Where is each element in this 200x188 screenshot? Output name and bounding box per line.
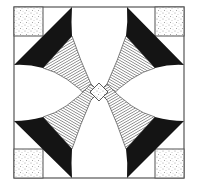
corner-square-bottom-left xyxy=(14,149,43,178)
corner-square-top-left xyxy=(14,7,43,36)
corner-square-bottom-right xyxy=(155,149,184,178)
quilt-block-figure xyxy=(0,0,200,188)
quilt-block-drawing xyxy=(0,0,200,188)
corner-square-top-right xyxy=(155,7,184,36)
